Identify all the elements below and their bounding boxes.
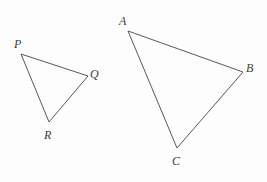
geometry-figure: P Q R A B C [0, 0, 267, 182]
vertex-label-b: B [246, 62, 253, 74]
vertex-label-a: A [119, 15, 126, 27]
triangle-pqr-outline [21, 54, 88, 122]
vertex-label-q: Q [90, 68, 99, 80]
triangles-drawing [0, 0, 267, 182]
vertex-label-p: P [14, 38, 21, 50]
vertex-label-r: R [44, 129, 51, 141]
triangle-abc-outline [128, 31, 243, 148]
vertex-label-c: C [172, 155, 180, 167]
